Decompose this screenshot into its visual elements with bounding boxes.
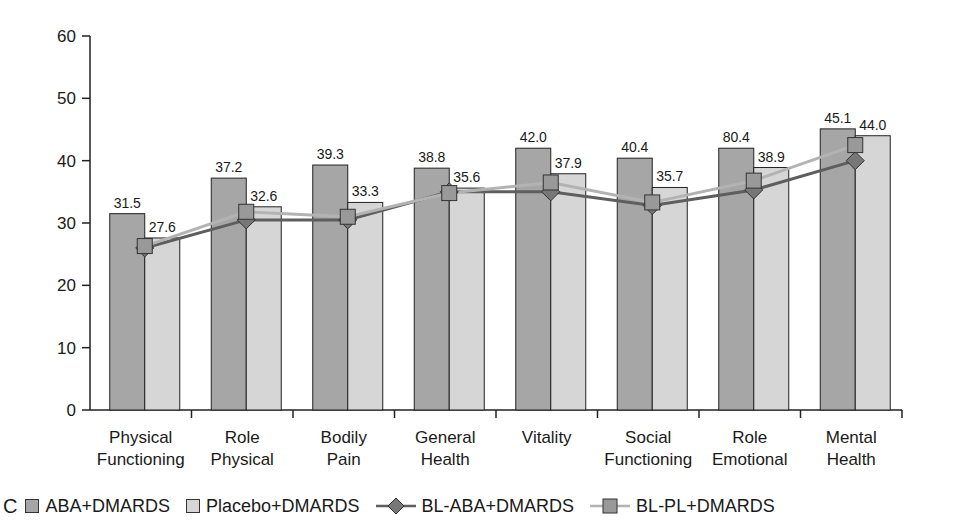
y-tick-label: 20 [57, 276, 76, 295]
diamond-line-icon [376, 496, 416, 516]
aba-swatch-icon [25, 499, 39, 513]
legend-item-bl-aba: BL-ABA+DMARDS [376, 496, 575, 517]
value-label-aba: 42.0 [520, 129, 547, 145]
x-category-label: Role [732, 428, 767, 447]
y-tick-label: 50 [57, 89, 76, 108]
x-category-label: Pain [327, 450, 361, 469]
y-tick-label: 60 [57, 27, 76, 46]
y-tick-label: 30 [57, 214, 76, 233]
legend-item-placebo: Placebo+DMARDS [186, 496, 360, 517]
value-label-aba: 80.4 [723, 129, 750, 145]
square-marker-icon [442, 186, 457, 201]
legend: C ABA+DMARDS Placebo+DMARDS BL-ABA+DMARD… [0, 492, 954, 520]
legend-label-bl-pl: BL-PL+DMARDS [636, 496, 775, 517]
square-line-icon [590, 496, 630, 516]
value-label-placebo: 44.0 [859, 117, 886, 133]
x-category-label: Health [827, 450, 876, 469]
bar-placebo [855, 136, 890, 410]
square-marker-icon [137, 239, 152, 254]
x-category-label: Emotional [712, 450, 788, 469]
x-category-label: Bodily [321, 428, 368, 447]
value-label-placebo: 38.9 [758, 149, 785, 165]
square-marker-icon [746, 173, 761, 188]
square-marker-icon [239, 204, 254, 219]
value-label-aba: 38.8 [418, 149, 445, 165]
value-label-placebo: 27.6 [149, 219, 176, 235]
value-label-aba: 39.3 [317, 146, 344, 162]
value-label-placebo: 35.7 [656, 168, 683, 184]
value-label-placebo: 32.6 [250, 188, 277, 204]
square-marker-icon [340, 209, 355, 224]
x-category-label: Functioning [97, 450, 185, 469]
bar-placebo [551, 174, 586, 410]
square-marker-icon [543, 175, 558, 190]
square-marker-icon [848, 138, 863, 153]
value-label-placebo: 33.3 [352, 183, 379, 199]
legend-item-aba: ABA+DMARDS [25, 496, 170, 517]
bar-aba [820, 129, 855, 410]
value-label-aba: 31.5 [114, 195, 141, 211]
panel-label: C [3, 495, 17, 518]
x-category-label: Vitality [522, 428, 572, 447]
legend-label-placebo: Placebo+DMARDS [206, 496, 360, 517]
x-category-label: Physical [211, 450, 274, 469]
x-category-label: Social [625, 428, 671, 447]
x-category-label: Physical [109, 428, 172, 447]
value-label-aba: 37.2 [215, 159, 242, 175]
bar-placebo [145, 238, 180, 410]
bar-aba [414, 168, 449, 410]
x-category-label: Functioning [604, 450, 692, 469]
legend-item-bl-pl: BL-PL+DMARDS [590, 496, 775, 517]
value-label-aba: 45.1 [824, 110, 851, 126]
value-label-placebo: 37.9 [555, 155, 582, 171]
placebo-swatch-icon [186, 499, 200, 513]
legend-label-bl-aba: BL-ABA+DMARDS [422, 496, 575, 517]
x-category-label: Role [225, 428, 260, 447]
bar-aba [313, 165, 348, 410]
y-tick-label: 0 [67, 401, 76, 420]
bar-placebo [348, 202, 383, 410]
bar-placebo [652, 187, 687, 410]
x-category-label: Mental [826, 428, 877, 447]
square-marker-icon [645, 195, 660, 210]
chart: 010203040506031.527.6PhysicalFunctioning… [0, 0, 954, 490]
y-tick-label: 10 [57, 339, 76, 358]
bar-placebo [246, 207, 281, 410]
value-label-placebo: 35.6 [453, 169, 480, 185]
bar-placebo [754, 168, 789, 410]
x-category-label: Health [421, 450, 470, 469]
value-label-aba: 40.4 [621, 139, 648, 155]
legend-label-aba: ABA+DMARDS [45, 496, 170, 517]
x-category-label: General [415, 428, 475, 447]
y-tick-label: 40 [57, 152, 76, 171]
bar-placebo [449, 188, 484, 410]
